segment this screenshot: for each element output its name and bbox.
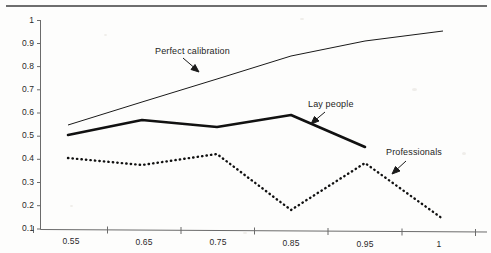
professionals-label: Professionals xyxy=(386,147,442,157)
y-tick-label: 0.6 xyxy=(4,107,34,117)
perfect-calibration-label: Perfect calibration xyxy=(155,46,230,56)
series-perfect-calibration-line xyxy=(68,31,443,125)
y-tick-label: 0.8 xyxy=(4,61,34,71)
y-tick-label: 1 xyxy=(4,15,34,25)
y-tick-label: 0.9 xyxy=(4,38,34,48)
x-tick-label: 0.95 xyxy=(345,239,385,249)
chart-figure: 1 0.9 0.8 0.7 0.6 0.5 0.4 0.3 0.2 0.1 0.… xyxy=(0,0,491,253)
x-tick-label: 0.85 xyxy=(271,238,311,248)
y-tick-label: 0.7 xyxy=(4,84,34,94)
x-tick-marks xyxy=(34,226,476,236)
lay-people-label: Lay people xyxy=(308,99,354,109)
y-tick-label: 0.5 xyxy=(4,130,34,140)
x-tick-label: 0.65 xyxy=(124,237,164,247)
y-tick-label: 0.1 xyxy=(4,223,34,233)
y-tick-label: 0.2 xyxy=(4,200,34,210)
x-tick-label: 0.55 xyxy=(51,236,91,246)
series-professionals-line xyxy=(68,154,443,219)
series-lay-people-line xyxy=(68,115,365,147)
y-tick-label: 0.4 xyxy=(4,153,34,163)
x-tick-label: 0.75 xyxy=(198,237,238,247)
y-tick-label: 0.3 xyxy=(4,177,34,187)
x-tick-label: 1 xyxy=(419,239,459,249)
chart-plot-svg xyxy=(0,0,491,253)
